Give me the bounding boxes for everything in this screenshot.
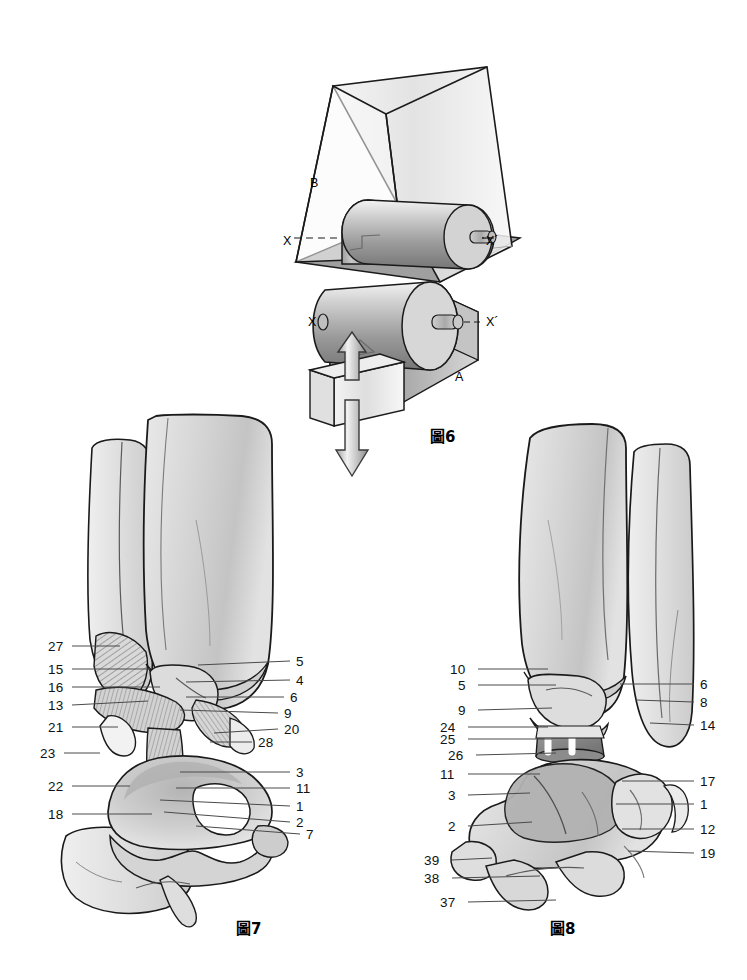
label-fig8-left-26: 26 [448,749,463,762]
marker-x-upper: X [283,234,291,248]
figure-artwork [0,0,747,980]
marker-xprime-lower: X´ [486,315,499,329]
caption-fig6: 圖6 [430,425,455,446]
label-fig8-left-5: 5 [458,679,466,692]
caption-fig8: 圖8 [550,917,575,938]
label-fig7-right-28: 28 [258,736,273,749]
label-fig7-right-20: 20 [284,723,299,736]
label-fig7-left-15: 15 [48,663,63,676]
label-fig7-left-23: 23 [40,747,55,760]
illustration-page: B X X´ X X´ A 圖6 圖7 圖8 27151613212322185… [0,0,747,980]
label-fig8-left-10: 10 [450,663,465,676]
caption-fig7: 圖7 [236,917,261,938]
label-fig7-left-13: 13 [48,699,63,712]
label-fig8-left-39: 39 [424,854,439,867]
marker-x-lower: X [308,315,316,329]
fig7-talus-calcaneus [61,756,288,927]
label-fig8-left-37: 37 [440,896,455,909]
marker-a: A [455,370,463,384]
label-fig7-left-21: 21 [48,721,63,734]
label-fig7-left-18: 18 [48,808,63,821]
label-fig8-right-19: 19 [700,847,715,860]
label-fig7-right-2: 2 [296,816,304,829]
marker-xprime-upper: X´ [486,234,499,248]
label-fig8-left-9: 9 [458,704,466,717]
label-fig8-left-3: 3 [448,789,456,802]
label-fig8-left-25: 25 [440,733,455,746]
label-fig8-left-2: 2 [448,820,456,833]
label-fig8-right-12: 12 [700,823,715,836]
label-fig7-right-3: 3 [296,766,304,779]
label-fig8-right-8: 8 [700,696,708,709]
label-fig7-left-27: 27 [48,640,63,653]
label-fig7-right-4: 4 [296,674,304,687]
label-fig7-right-9: 9 [284,707,292,720]
label-fig8-right-14: 14 [700,719,715,732]
label-fig7-right-11: 11 [296,782,310,795]
label-fig7-right-1: 1 [296,800,304,813]
label-fig8-left-38: 38 [424,872,439,885]
fig8-distal-tibia-fibula [519,424,694,763]
label-fig7-left-16: 16 [48,681,63,694]
fig8-talus-superior [451,760,688,910]
label-fig7-right-7: 7 [306,828,314,841]
label-fig7-right-6: 6 [290,691,298,704]
fig6-upper-assembly [294,67,520,282]
label-fig8-left-11: 11 [440,768,454,781]
label-fig7-right-5: 5 [296,655,304,668]
label-fig7-left-22: 22 [48,780,63,793]
fig7-distal-tibia-fibula [88,415,273,806]
label-fig8-right-17: 17 [700,775,715,788]
label-fig8-right-1: 1 [700,798,708,811]
marker-b: B [310,176,318,190]
label-fig8-right-6: 6 [700,678,708,691]
